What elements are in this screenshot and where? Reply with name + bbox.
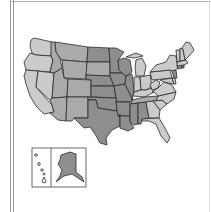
state-OR[interactable] (24, 53, 53, 72)
inset-frame (32, 148, 86, 187)
state-NY[interactable] (150, 55, 178, 72)
state-CO[interactable] (67, 79, 91, 97)
state-ND[interactable] (87, 47, 110, 62)
state-NM[interactable] (66, 97, 88, 121)
state-AR[interactable] (116, 102, 130, 116)
state-VT[interactable] (176, 50, 180, 62)
state-OH[interactable] (140, 75, 152, 90)
state-NJ[interactable] (172, 70, 177, 78)
state-KS[interactable] (91, 86, 116, 98)
state-MS[interactable] (130, 103, 138, 125)
state-FL[interactable] (142, 118, 170, 143)
state-SD[interactable] (86, 62, 110, 76)
us-map (0, 0, 211, 212)
state-WY[interactable] (62, 60, 87, 79)
state-WA[interactable] (30, 38, 52, 56)
